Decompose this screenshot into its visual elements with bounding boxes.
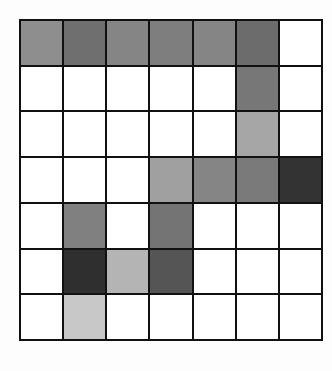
grid-cell-r4-c1 — [64, 204, 105, 248]
grid-cell-r5-c1 — [64, 250, 105, 294]
grid-cell-r3-c6 — [280, 158, 321, 202]
grid-cell-r6-c1 — [64, 295, 105, 339]
grid-cell-r1-c4 — [194, 67, 235, 111]
grid-cell-r6-c4 — [194, 295, 235, 339]
grid-cell-r2-c6 — [280, 112, 321, 156]
grid-cell-r2-c0 — [21, 112, 62, 156]
grid-cell-r1-c6 — [280, 67, 321, 111]
grid-cell-r1-c5 — [237, 67, 278, 111]
grid-cell-r0-c6 — [280, 21, 321, 65]
grid-cell-r5-c2 — [107, 250, 148, 294]
grid-cell-r3-c4 — [194, 158, 235, 202]
grid-cell-r3-c1 — [64, 158, 105, 202]
grid-cell-r2-c4 — [194, 112, 235, 156]
grid-cell-r4-c0 — [21, 204, 62, 248]
grid-cell-r2-c3 — [150, 112, 191, 156]
grid-cell-r4-c6 — [280, 204, 321, 248]
grid-cell-r6-c0 — [21, 295, 62, 339]
grid-cell-r0-c5 — [237, 21, 278, 65]
grid-cell-r0-c4 — [194, 21, 235, 65]
grid-cell-r2-c1 — [64, 112, 105, 156]
grid-cell-r0-c3 — [150, 21, 191, 65]
grid-cell-r1-c1 — [64, 67, 105, 111]
grid-cell-r0-c0 — [21, 21, 62, 65]
grid-cell-r5-c3 — [150, 250, 191, 294]
grid-cell-r4-c5 — [237, 204, 278, 248]
grid-cell-r3-c3 — [150, 158, 191, 202]
grid-cell-r4-c4 — [194, 204, 235, 248]
grid-cell-r2-c2 — [107, 112, 148, 156]
grid-cell-r0-c2 — [107, 21, 148, 65]
grid-cell-r3-c5 — [237, 158, 278, 202]
grid-cell-r4-c2 — [107, 204, 148, 248]
grid-cell-r2-c5 — [237, 112, 278, 156]
grid-cell-r5-c0 — [21, 250, 62, 294]
grid-cell-r3-c0 — [21, 158, 62, 202]
grid-cell-r5-c6 — [280, 250, 321, 294]
grid-cell-r5-c4 — [194, 250, 235, 294]
grid-cell-r6-c6 — [280, 295, 321, 339]
grid-cell-r4-c3 — [150, 204, 191, 248]
grid-cell-r3-c2 — [107, 158, 148, 202]
grid-cell-r6-c2 — [107, 295, 148, 339]
grid-cell-r0-c1 — [64, 21, 105, 65]
grid-cell-r5-c5 — [237, 250, 278, 294]
grid-cell-r6-c3 — [150, 295, 191, 339]
grid-cell-r1-c2 — [107, 67, 148, 111]
grid-cell-r1-c0 — [21, 67, 62, 111]
shaded-grid — [19, 19, 323, 341]
grid-cell-r6-c5 — [237, 295, 278, 339]
grid-cell-r1-c3 — [150, 67, 191, 111]
